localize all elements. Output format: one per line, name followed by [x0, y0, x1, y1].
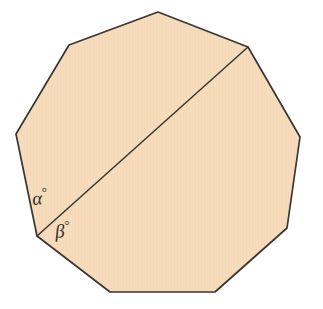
beta-degree-sign: °: [64, 218, 70, 233]
nonagon-shape: [16, 12, 300, 292]
angle-label-beta: β°: [54, 219, 70, 241]
nonagon-diagram-svg: [0, 0, 323, 309]
angle-label-alpha: α°: [31, 185, 48, 208]
geometry-figure: α° β°: [0, 0, 323, 309]
